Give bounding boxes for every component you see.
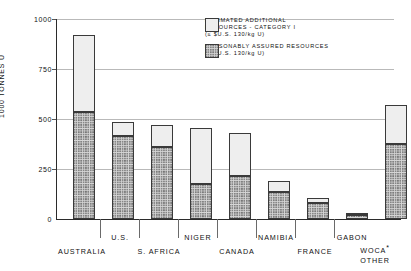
segment-reasonably-assured xyxy=(268,192,290,219)
bar-france xyxy=(307,198,329,219)
legend-line-1: REASONABLY ASSURED RESOURCES xyxy=(205,43,329,50)
x-divider-tick xyxy=(178,219,179,238)
footnote-asterisk: * xyxy=(386,244,390,251)
x-divider-tick xyxy=(217,219,218,238)
bar-australia xyxy=(73,35,95,219)
x-label-woca-other: WOCA* OTHER xyxy=(360,243,390,265)
y-axis-line xyxy=(56,19,57,220)
x-label-woca-line1: WOCA xyxy=(360,246,386,255)
segment-reasonably-assured xyxy=(151,147,173,219)
y-axis-title: 1000 TONNES U xyxy=(0,54,5,118)
legend-entry-text: REASONABLY ASSURED RESOURCES (≤ $U.S. 13… xyxy=(205,43,329,57)
segment-estimated-additional xyxy=(229,133,251,176)
segment-estimated-additional xyxy=(385,105,407,144)
ear-swatch-icon xyxy=(205,18,219,32)
gridline-750 xyxy=(56,69,394,70)
legend-entry-reasonably-assured: REASONABLY ASSURED RESOURCES (≤ $U.S. 13… xyxy=(205,43,405,57)
x-divider-tick xyxy=(334,219,335,238)
bar-u-s xyxy=(112,122,134,219)
segment-reasonably-assured xyxy=(190,184,212,219)
x-label-niger: NIGER xyxy=(184,233,211,242)
x-label-gabon: GABON xyxy=(337,233,367,242)
chart-legend: ESTIMATED ADDITIONAL RESOURCES - CATEGOR… xyxy=(205,17,405,61)
y-tick-500: 500 xyxy=(39,116,52,123)
x-divider-tick xyxy=(139,219,140,238)
bar-s-africa xyxy=(151,125,173,219)
segment-estimated-additional xyxy=(190,128,212,184)
segment-estimated-additional xyxy=(268,181,290,192)
x-label-s-africa: S. AFRICA xyxy=(138,247,181,256)
x-label-woca-line2: OTHER xyxy=(360,256,390,265)
y-tick-750: 750 xyxy=(39,66,52,73)
x-label-australia: AUSTRALIA xyxy=(58,247,106,256)
segment-estimated-additional xyxy=(112,122,134,136)
segment-reasonably-assured xyxy=(307,203,329,219)
gridline-250 xyxy=(56,169,394,170)
x-label-france: FRANCE xyxy=(298,247,333,256)
bar-canada xyxy=(229,133,251,219)
x-divider-tick xyxy=(256,219,257,238)
x-axis-category-labels: AUSTRALIA U.S. S. AFRICA NIGER CANADA NA… xyxy=(0,219,411,271)
segment-reasonably-assured xyxy=(73,112,95,219)
bar-namibia xyxy=(268,181,290,219)
segment-reasonably-assured xyxy=(229,176,251,219)
segment-reasonably-assured xyxy=(385,144,407,219)
x-divider-tick xyxy=(295,219,296,238)
gridline-500 xyxy=(56,119,394,120)
x-label-canada: CANADA xyxy=(219,247,254,256)
legend-line-2: (≤ $U.S. 130/kg U) xyxy=(205,50,329,57)
segment-estimated-additional xyxy=(73,35,95,112)
x-label-us: U.S. xyxy=(111,233,129,242)
y-tick-1000: 1000 xyxy=(34,16,52,23)
y-axis-tick-labels: 1000 750 500 250 0 xyxy=(0,19,52,220)
uranium-resources-bar-chart: 1000 750 500 250 0 1000 TONNES U ESTIMAT… xyxy=(0,0,411,271)
segment-reasonably-assured xyxy=(112,136,134,219)
rar-swatch-icon xyxy=(205,44,219,58)
legend-entry-estimated-additional: ESTIMATED ADDITIONAL RESOURCES - CATEGOR… xyxy=(205,17,405,39)
legend-line-3: (≤ $U.S. 130/kg U) xyxy=(205,31,296,38)
y-tick-250: 250 xyxy=(39,166,52,173)
x-label-namibia: NAMIBIA xyxy=(258,233,294,242)
bar-niger xyxy=(190,128,212,219)
x-divider-tick xyxy=(100,219,101,238)
bar-woca-other xyxy=(385,105,407,219)
segment-estimated-additional xyxy=(151,125,173,147)
